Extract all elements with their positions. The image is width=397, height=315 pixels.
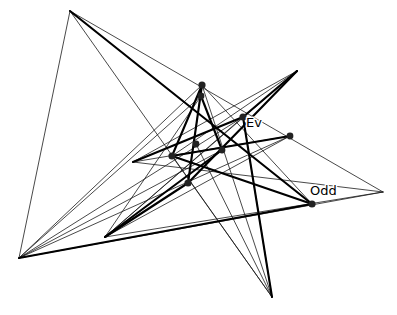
- vertex-upper-a: [198, 81, 205, 88]
- thin-topapex-leftapex: [19, 11, 70, 258]
- vertex-odd: [308, 200, 315, 207]
- thick-lines-group: [19, 11, 312, 297]
- vertex-upper-b: [198, 93, 205, 100]
- thin-leftapex-centerlt: [19, 150, 222, 258]
- geometry-canvas: EvEvOddOdd: [0, 0, 397, 315]
- vertex-right-mid: [287, 133, 294, 140]
- thin-lines-group: [19, 11, 383, 297]
- vertex-center-left: [193, 141, 200, 148]
- vertex-left-mid: [168, 152, 175, 159]
- vertex-lower-center: [184, 179, 191, 186]
- vertex-center-right: [219, 147, 226, 154]
- thick-leftapex-oddpt: [19, 204, 312, 258]
- label-odd: Odd: [310, 183, 337, 198]
- geometry-figure: EvEvOddOdd: [0, 0, 397, 315]
- label-ev: Ev: [246, 115, 262, 130]
